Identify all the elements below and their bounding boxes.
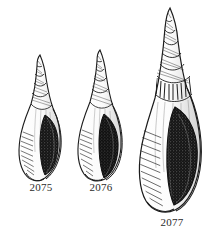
figure-label-2077: 2077 [142,216,202,228]
figure-label-2076: 2076 [72,181,130,193]
shell-illustration-2075 [14,52,68,182]
shell-illustration-2077 [134,6,210,212]
illustration-plate: 2075 [0,0,211,240]
shell-illustration-2076 [74,48,128,182]
figure-label-2075: 2075 [12,181,70,193]
